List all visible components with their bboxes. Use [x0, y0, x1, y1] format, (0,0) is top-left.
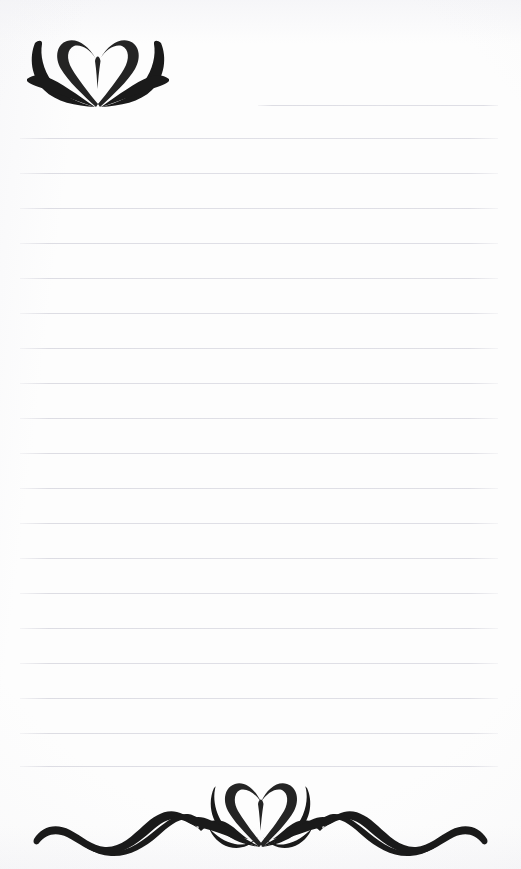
- ruled-line: [20, 173, 498, 174]
- ruled-line: [20, 593, 498, 594]
- ruled-line: [20, 453, 498, 454]
- ruled-line: [20, 523, 498, 524]
- ruled-line: [20, 488, 498, 489]
- ruled-line: [20, 138, 498, 139]
- ruled-line: [20, 698, 498, 699]
- ruled-line: [20, 418, 498, 419]
- lotus-heart-wave-flourish-icon: [8, 776, 513, 862]
- ruled-line: [20, 278, 498, 279]
- ruled-line: [20, 766, 498, 767]
- ruled-line: [20, 663, 498, 664]
- ruled-line: [20, 348, 498, 349]
- paper-texture: [0, 0, 521, 869]
- ruled-line: [20, 313, 498, 314]
- lotus-heart-flourish-icon: [26, 33, 170, 113]
- ruled-line: [20, 243, 498, 244]
- ruled-lines: [0, 0, 521, 869]
- ruled-line: [20, 628, 498, 629]
- ruled-line: [20, 733, 498, 734]
- ruled-line: [20, 558, 498, 559]
- ruled-line: [20, 383, 498, 384]
- ruled-line: [258, 105, 498, 106]
- ruled-line: [20, 208, 498, 209]
- stationery-page: [0, 0, 521, 869]
